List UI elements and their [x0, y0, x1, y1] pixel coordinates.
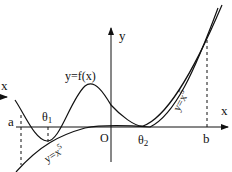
- left-x-label: x: [1, 78, 8, 93]
- y-axis-label: y: [119, 28, 126, 43]
- curve-x5: [16, 8, 218, 172]
- curve-x5-left-label: y=x5: [41, 142, 66, 165]
- theta1-label: θ1: [42, 110, 52, 125]
- curve-f-label: y=f(x): [65, 69, 96, 83]
- point-a-label: a: [8, 114, 14, 129]
- point-b-label: b: [203, 131, 210, 146]
- diagram-canvas: x y x O a θ1 θ2 b y=f(x) y=x5 y=x5: [0, 0, 232, 172]
- origin-label: O: [100, 131, 109, 145]
- x-axis-label: x: [221, 103, 228, 118]
- svg-text:y=x5: y=x5: [41, 142, 66, 165]
- theta2-label: θ2: [138, 133, 148, 148]
